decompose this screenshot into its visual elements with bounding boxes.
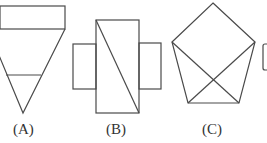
- figure-d-partial-shape: [263, 44, 267, 70]
- figure-c-label: (C): [202, 122, 222, 137]
- figure-a-shape: [0, 6, 65, 113]
- figure-a-label: (A): [13, 122, 34, 137]
- figure-b-shape: [73, 20, 161, 113]
- figure-c-shape: [172, 3, 255, 103]
- figure-b-label: (B): [106, 122, 126, 137]
- figure-diagram: [0, 0, 267, 143]
